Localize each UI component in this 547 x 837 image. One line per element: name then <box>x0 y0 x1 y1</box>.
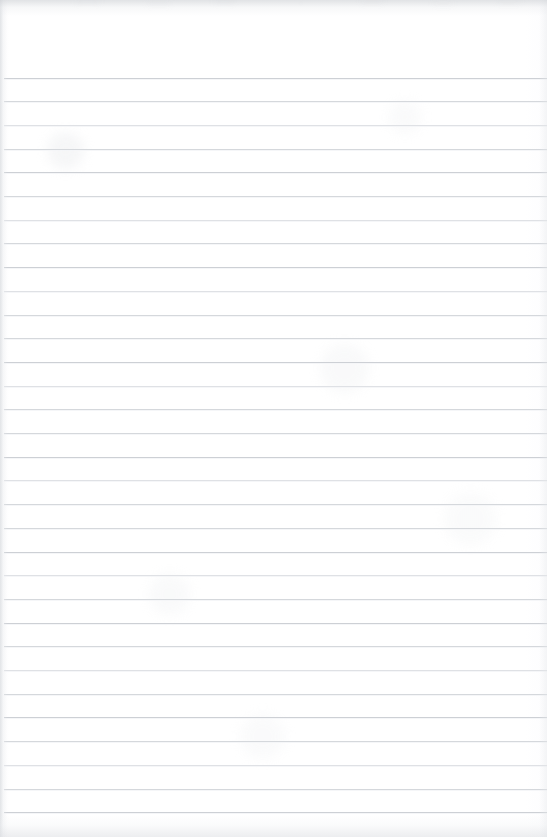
rule-line <box>4 125 547 126</box>
rule-line <box>4 741 547 742</box>
rule-line <box>4 338 547 339</box>
rule-line <box>4 362 547 363</box>
rule-line <box>4 291 547 292</box>
rule-line <box>4 599 547 600</box>
ruled-lines-area <box>0 0 547 837</box>
rule-line <box>4 172 547 173</box>
rule-line <box>4 149 547 150</box>
rule-line <box>4 694 547 695</box>
rule-line <box>4 623 547 624</box>
rule-line <box>4 315 547 316</box>
rule-line <box>4 386 547 387</box>
rule-line <box>4 243 547 244</box>
rule-line <box>4 789 547 790</box>
rule-line <box>4 717 547 718</box>
rule-line <box>4 78 547 79</box>
rule-line <box>4 528 547 529</box>
rule-line <box>4 552 547 553</box>
rule-line <box>4 670 547 671</box>
rule-line <box>4 575 547 576</box>
rule-line <box>4 409 547 410</box>
rule-line <box>4 765 547 766</box>
scanned-page <box>0 0 547 837</box>
rule-line <box>4 812 547 813</box>
rule-line <box>4 196 547 197</box>
rule-line <box>4 220 547 221</box>
rule-line <box>4 504 547 505</box>
rule-line <box>4 267 547 268</box>
rule-line <box>4 433 547 434</box>
rule-line <box>4 457 547 458</box>
rule-line <box>4 646 547 647</box>
rule-line <box>4 101 547 102</box>
rule-line <box>4 480 547 481</box>
